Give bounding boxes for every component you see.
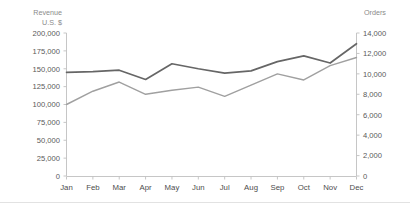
left-axis-ticks: 025,00050,00075,000100,000125,000150,000… xyxy=(33,29,67,181)
left-tick-label: 25,000 xyxy=(37,154,60,163)
right-tick-label: 14,000 xyxy=(363,29,386,38)
month-label: Jul xyxy=(220,183,230,192)
month-label: Nov xyxy=(323,183,337,192)
dual-axis-line-chart: Revenue U.S. $ Orders 025,00050,00075,00… xyxy=(0,0,410,203)
right-tick-label: 0 xyxy=(363,172,367,181)
left-axis-title-line-2: U.S. $ xyxy=(42,18,62,27)
right-tick-label: 2,000 xyxy=(363,151,382,160)
left-tick-label: 200,000 xyxy=(33,29,60,38)
orders-line-series xyxy=(67,58,357,105)
left-tick-label: 75,000 xyxy=(37,118,60,127)
right-tick-label: 4,000 xyxy=(363,131,382,140)
chart-canvas: Revenue U.S. $ Orders 025,00050,00075,00… xyxy=(0,0,410,203)
month-label: Aug xyxy=(244,183,258,192)
left-tick-label: 175,000 xyxy=(33,47,60,56)
month-label: Mar xyxy=(113,183,127,192)
month-label: Jan xyxy=(60,183,73,192)
month-label: Feb xyxy=(86,183,100,192)
month-label: Sep xyxy=(270,183,285,192)
right-tick-label: 10,000 xyxy=(363,70,386,79)
month-label: Apr xyxy=(140,183,153,192)
month-label: May xyxy=(165,183,180,192)
right-tick-label: 12,000 xyxy=(363,49,386,58)
left-tick-label: 150,000 xyxy=(33,65,60,74)
left-tick-label: 100,000 xyxy=(33,100,60,109)
right-axis-title-group: Orders xyxy=(364,8,386,17)
left-axis-title-line-1: Revenue xyxy=(33,8,62,17)
right-tick-label: 6,000 xyxy=(363,111,382,120)
right-axis-ticks: 02,0004,0006,0008,00010,00012,00014,000 xyxy=(357,29,387,181)
left-tick-label: 125,000 xyxy=(33,82,60,91)
month-label: Oct xyxy=(298,183,311,192)
x-axis-month-labels: JanFebMarAprMayJunJulAugSepOctNovDec xyxy=(60,177,363,193)
left-tick-label: 0 xyxy=(56,172,60,181)
right-tick-label: 8,000 xyxy=(363,90,382,99)
month-label: Jun xyxy=(192,183,205,192)
month-label: Dec xyxy=(350,183,364,192)
right-axis-title: Orders xyxy=(364,8,386,17)
revenue-line-series xyxy=(67,44,357,80)
left-tick-label: 50,000 xyxy=(37,136,60,145)
left-axis-title-group: Revenue U.S. $ xyxy=(33,8,62,27)
